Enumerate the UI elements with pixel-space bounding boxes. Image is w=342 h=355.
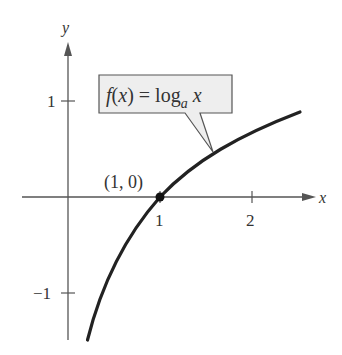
y-axis: y	[60, 19, 72, 340]
callout-var: x	[117, 84, 127, 106]
function-callout: f(x) = loga x	[99, 75, 232, 152]
point-1-0	[156, 193, 165, 202]
x-tick-1-label: 1	[155, 211, 164, 230]
callout-sub: a	[181, 96, 188, 111]
x-axis-arrow-icon	[302, 193, 316, 201]
callout-arg: x	[188, 84, 202, 106]
callout-eq-log: = log	[134, 84, 181, 107]
callout-close: )	[127, 84, 134, 107]
y-axis-label: y	[60, 19, 70, 37]
point-label: (1, 0)	[104, 172, 143, 193]
log-curve	[88, 112, 301, 340]
log-function-graph: y x 1 2 1 −1 (1, 0) f(x) = loga x	[0, 0, 342, 355]
y-axis-arrow-icon	[64, 42, 72, 56]
x-axis-label: x	[318, 189, 326, 206]
x-tick-2-label: 2	[246, 211, 255, 230]
y-tick-1-label: 1	[47, 92, 56, 111]
y-tick-neg1-label: −1	[33, 284, 51, 303]
